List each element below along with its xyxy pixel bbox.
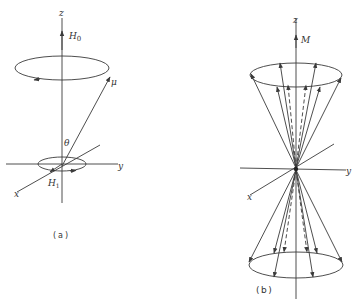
panel-a — [6, 18, 118, 203]
m-label: M — [300, 35, 311, 45]
caption-b: (b) — [256, 285, 273, 295]
lower-spin-1 — [274, 170, 296, 253]
cone-apex — [294, 167, 298, 171]
upper-spin-3 — [277, 87, 296, 168]
orbit-direction-arrow — [34, 79, 40, 80]
theta-label: θ — [64, 138, 70, 148]
y-label-b: y — [345, 166, 352, 176]
upper-spin-dashed-1 — [288, 85, 296, 168]
z-label-a: z — [58, 8, 64, 18]
x-label-a: x — [14, 189, 19, 199]
h0-label: H0 — [68, 31, 81, 43]
precession-diagram: z H0 μ θ y x H1 (a) z M y — [0, 0, 357, 299]
upper-spin-dashed-2 — [296, 85, 306, 168]
upper-spin-2 — [296, 63, 316, 168]
h1-label: H1 — [47, 178, 60, 189]
lower-spin-2 — [296, 170, 317, 253]
panel-b — [240, 18, 346, 299]
x-label-b: x — [247, 192, 252, 202]
mu-label: μ — [111, 77, 117, 87]
caption-a: (a) — [53, 231, 70, 240]
h1-orbit-arrow — [70, 171, 76, 172]
z-label-b: z — [292, 15, 298, 25]
y-label-a: y — [117, 161, 124, 171]
lower-spin-3 — [274, 170, 296, 277]
